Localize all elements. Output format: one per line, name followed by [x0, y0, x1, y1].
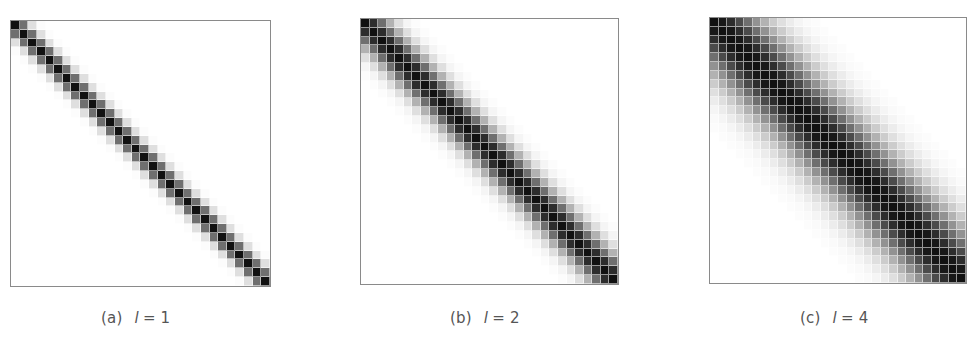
- heatmap-cell: [558, 240, 567, 249]
- heatmap-cell: [761, 168, 770, 177]
- heatmap-cell: [744, 274, 753, 283]
- heatmap-cell: [881, 274, 890, 283]
- heatmap-cell: [175, 118, 184, 127]
- heatmap-cell: [957, 71, 966, 80]
- heatmap-cell: [592, 37, 601, 46]
- heatmap-cell: [430, 266, 439, 275]
- heatmap-cell: [472, 240, 481, 249]
- heatmap-cell: [438, 257, 447, 266]
- heatmap-cell: [235, 224, 244, 233]
- heatmap-cell: [575, 169, 584, 178]
- heatmap-cell: [864, 203, 873, 212]
- heatmap-cell: [541, 204, 550, 213]
- heatmap-cell: [923, 18, 932, 27]
- heatmap-cell: [838, 203, 847, 212]
- heatmap-cell: [795, 256, 804, 265]
- heatmap-cell: [421, 275, 430, 284]
- heatmap-cell: [175, 109, 184, 118]
- heatmap-cell: [201, 224, 210, 233]
- heatmap-cell: [361, 169, 370, 178]
- heatmap-cell: [175, 83, 184, 92]
- heatmap-cell: [201, 136, 210, 145]
- heatmap-cell: [949, 203, 958, 212]
- heatmap-cell: [727, 159, 736, 168]
- heatmap-cell: [361, 249, 370, 258]
- heatmap-cell: [524, 187, 533, 196]
- heatmap-cell: [218, 189, 227, 198]
- heatmap-cell: [889, 62, 898, 71]
- heatmap-cell: [472, 178, 481, 187]
- heatmap-cell: [455, 19, 464, 28]
- heatmap-cell: [710, 124, 719, 133]
- heatmap-cell: [829, 230, 838, 239]
- heatmap-cell: [63, 74, 72, 83]
- heatmap-cell: [89, 100, 98, 109]
- heatmap-cell: [235, 233, 244, 242]
- heatmap-cell: [567, 63, 576, 72]
- heatmap-cell: [584, 37, 593, 46]
- heatmap-cell: [192, 233, 201, 242]
- heatmap-cell: [795, 80, 804, 89]
- heatmap-cell: [489, 125, 498, 134]
- heatmap-cell: [872, 195, 881, 204]
- heatmap-cell: [46, 198, 55, 207]
- heatmap-cell: [532, 81, 541, 90]
- heatmap-cell: [812, 203, 821, 212]
- heatmap-cell: [28, 251, 37, 260]
- heatmap-cell: [421, 37, 430, 46]
- heatmap-cell: [28, 206, 37, 215]
- heatmap-cell: [489, 37, 498, 46]
- heatmap-frame-a: [10, 20, 271, 287]
- heatmap-cell: [447, 81, 456, 90]
- heatmap-cell: [940, 150, 949, 159]
- heatmap-cell: [115, 189, 124, 198]
- heatmap-cell: [464, 63, 473, 72]
- heatmap-cell: [609, 213, 618, 222]
- heatmap-cell: [361, 196, 370, 205]
- heatmap-cell: [63, 109, 72, 118]
- heatmap-cell: [558, 125, 567, 134]
- heatmap-cell: [412, 72, 421, 81]
- heatmap-cell: [430, 249, 439, 258]
- heatmap-cell: [481, 275, 490, 284]
- heatmap-cell: [957, 106, 966, 115]
- heatmap-cell: [804, 80, 813, 89]
- heatmap-cell: [438, 160, 447, 169]
- heatmap-cell: [829, 106, 838, 115]
- heatmap-cell: [481, 63, 490, 72]
- heatmap-cell: [361, 275, 370, 284]
- heatmap-cell: [744, 168, 753, 177]
- heatmap-cell: [532, 125, 541, 134]
- heatmap-cell: [361, 54, 370, 63]
- heatmap-cell: [115, 39, 124, 48]
- heatmap-cell: [253, 83, 262, 92]
- heatmap-cell: [412, 81, 421, 90]
- heatmap-cell: [421, 160, 430, 169]
- heatmap-cell: [864, 221, 873, 230]
- heatmap-cell: [532, 54, 541, 63]
- heatmap-cell: [804, 62, 813, 71]
- heatmap-cell: [378, 178, 387, 187]
- heatmap-cell: [804, 89, 813, 98]
- heatmap-cell: [115, 109, 124, 118]
- heatmap-cell: [567, 187, 576, 196]
- heatmap-cell: [80, 233, 89, 242]
- heatmap-cell: [949, 62, 958, 71]
- heatmap-cell: [132, 145, 141, 154]
- heatmap-cell: [37, 224, 46, 233]
- heatmap-cell: [11, 180, 20, 189]
- heatmap-cell: [80, 47, 89, 56]
- heatmap-cell: [447, 143, 456, 152]
- heatmap-cell: [575, 160, 584, 169]
- heatmap-cell: [727, 274, 736, 283]
- heatmap-cell: [11, 118, 20, 127]
- heatmap-cell: [430, 275, 439, 284]
- heatmap-cell: [455, 134, 464, 143]
- heatmap-cell: [778, 221, 787, 230]
- heatmap-cell: [447, 222, 456, 231]
- heatmap-cell: [719, 44, 728, 53]
- heatmap-cell: [192, 100, 201, 109]
- heatmap-cell: [923, 115, 932, 124]
- heatmap-cell: [481, 249, 490, 258]
- heatmap-cell: [829, 195, 838, 204]
